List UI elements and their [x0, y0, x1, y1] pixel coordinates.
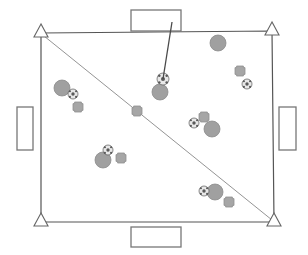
corner-marker-top-left — [34, 24, 48, 37]
robot-circle[interactable] — [210, 35, 226, 51]
soccer-ball[interactable] — [242, 79, 252, 89]
soccer-ball-panel — [196, 119, 198, 121]
soccer-ball-panel — [196, 125, 198, 127]
goal-top[interactable] — [131, 10, 181, 31]
goal-right[interactable] — [279, 107, 296, 150]
soccer-ball-panel — [69, 90, 71, 92]
soccer-ball[interactable] — [68, 89, 78, 99]
soccer-ball-panel — [249, 80, 251, 82]
diagonal-divider — [44, 36, 272, 220]
corner-marker-top-right — [265, 22, 279, 35]
soccer-ball-panel — [104, 152, 106, 154]
goal-left[interactable] — [17, 107, 33, 150]
robot-cross[interactable] — [132, 106, 142, 116]
soccer-ball-panel — [249, 86, 251, 88]
soccer-ball-panel — [110, 152, 112, 154]
soccer-ball-panel — [165, 81, 168, 84]
soccer-ball-panel — [158, 74, 161, 77]
soccer-ball-panel — [200, 187, 202, 189]
robot-cross[interactable] — [73, 102, 83, 112]
soccer-ball-panel — [206, 187, 208, 189]
soccer-ball-panel — [69, 96, 71, 98]
soccer-ball[interactable] — [199, 186, 209, 196]
robot-cross[interactable] — [199, 112, 209, 122]
diagram-canvas — [0, 0, 308, 255]
soccer-ball-panel — [165, 74, 168, 77]
field-diagram-svg — [0, 0, 308, 255]
soccer-ball-panel — [243, 80, 245, 82]
goal-bottom[interactable] — [131, 227, 181, 247]
soccer-ball-panel — [192, 121, 195, 124]
soccer-ball-panel — [106, 148, 109, 151]
soccer-ball-panel — [190, 119, 192, 121]
soccer-ball-panel — [104, 146, 106, 148]
soccer-ball-panel — [190, 125, 192, 127]
soccer-ball-panel — [75, 96, 77, 98]
soccer-ball-panel — [206, 193, 208, 195]
soccer-ball-panel — [71, 92, 74, 95]
soccer-ball-panel — [158, 81, 161, 84]
robot-cross[interactable] — [116, 153, 126, 163]
soccer-ball-panel — [200, 193, 202, 195]
robot-cross[interactable] — [224, 197, 234, 207]
soccer-ball-panel — [245, 82, 248, 85]
robot-circle[interactable] — [152, 84, 168, 100]
soccer-ball[interactable] — [189, 118, 199, 128]
soccer-ball-panel — [110, 146, 112, 148]
corner-marker-bottom-left — [34, 213, 48, 226]
soccer-ball[interactable] — [103, 145, 113, 155]
soccer-ball-panel — [243, 86, 245, 88]
robot-circle[interactable] — [54, 80, 70, 96]
soccer-ball-panel — [202, 189, 205, 192]
robot-circle[interactable] — [204, 121, 220, 137]
corner-marker-bottom-right — [267, 213, 281, 226]
robot-circle[interactable] — [207, 184, 223, 200]
robot-cross[interactable] — [235, 66, 245, 76]
soccer-ball-panel — [75, 90, 77, 92]
